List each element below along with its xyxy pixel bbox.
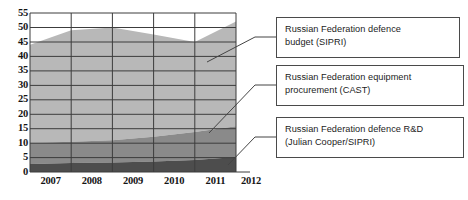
legend-label-line2: procurement (CAST) <box>285 84 456 97</box>
chart-plot-region: 55 50 45 40 35 30 25 20 15 10 5 0 2007 2… <box>0 0 252 200</box>
stacked-area-chart-figure: 55 50 45 40 35 30 25 20 15 10 5 0 2007 2… <box>0 0 468 200</box>
y-tick-55: 55 <box>6 8 28 18</box>
x-tick-2009: 2009 <box>112 175 153 187</box>
legend-item-equipment-procurement[interactable]: Russian Federation equipment procurement… <box>276 65 464 106</box>
legend-label-line1: Russian Federation equipment <box>285 72 411 82</box>
y-tick-15: 15 <box>6 123 28 133</box>
x-tick-2007: 2007 <box>30 175 71 187</box>
y-tick-20: 20 <box>6 109 28 119</box>
y-tick-30: 30 <box>6 80 28 90</box>
y-tick-50: 50 <box>6 22 28 32</box>
y-tick-45: 45 <box>6 37 28 47</box>
y-tick-40: 40 <box>6 51 28 61</box>
legend-item-defence-rnd[interactable]: Russian Federation defence R&D (Julian C… <box>276 117 464 158</box>
chart-svg <box>0 0 252 200</box>
legend-item-defence-budget[interactable]: Russian Federation defence budget (SIPRI… <box>276 17 460 58</box>
y-tick-0: 0 <box>6 167 28 177</box>
y-axis-tick-labels: 55 50 45 40 35 30 25 20 15 10 5 0 <box>2 0 28 200</box>
area-defence-budget <box>30 22 236 144</box>
y-tick-25: 25 <box>6 94 28 104</box>
x-tick-2010: 2010 <box>154 175 195 187</box>
legend-label-line1: Russian Federation defence <box>285 24 401 34</box>
x-tick-2011: 2011 <box>195 175 236 187</box>
legend-label-line2: (Julian Cooper/SIPRI) <box>285 136 456 149</box>
x-tick-2012: 2012 <box>236 175 266 187</box>
y-tick-5: 5 <box>6 152 28 162</box>
y-tick-35: 35 <box>6 65 28 75</box>
x-tick-2008: 2008 <box>71 175 112 187</box>
y-tick-10: 10 <box>6 138 28 148</box>
legend-label-line2: budget (SIPRI) <box>285 36 452 49</box>
legend-label-line1: Russian Federation defence R&D <box>285 124 423 134</box>
